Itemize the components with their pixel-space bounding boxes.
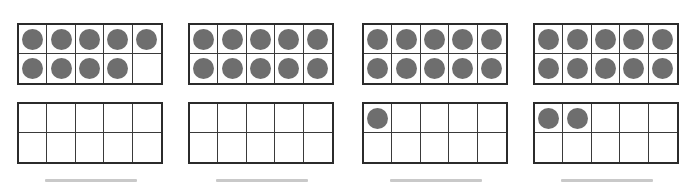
- ten-frame-cell[interactable]: [563, 25, 591, 54]
- ten-frame-cell[interactable]: [76, 25, 104, 54]
- ten-frame-cell[interactable]: [190, 25, 218, 54]
- ten-frame-cell[interactable]: [275, 133, 303, 162]
- ten-frame-cell[interactable]: [19, 133, 47, 162]
- ten-frame-cell[interactable]: [247, 133, 275, 162]
- ten-frame-cell[interactable]: [104, 54, 132, 83]
- ten-frame-cell[interactable]: [190, 54, 218, 83]
- ten-frame-cell[interactable]: [133, 104, 161, 133]
- ten-frame-cell[interactable]: [364, 54, 392, 83]
- ten-frame-cell[interactable]: [364, 133, 392, 162]
- ten-frame-cell[interactable]: [649, 104, 677, 133]
- ten-frame-3-1[interactable]: [362, 23, 508, 85]
- ten-frame-cell[interactable]: [304, 104, 332, 133]
- ten-frame-cell[interactable]: [592, 54, 620, 83]
- answer-line[interactable]: [390, 179, 482, 182]
- ten-frame-3-2[interactable]: [362, 102, 508, 164]
- counter-dot-icon: [595, 58, 616, 79]
- ten-frame-cell[interactable]: [449, 104, 477, 133]
- ten-frame-cell[interactable]: [275, 25, 303, 54]
- ten-frame-cell[interactable]: [620, 25, 648, 54]
- ten-frame-cell[interactable]: [535, 104, 563, 133]
- ten-frame-cell[interactable]: [247, 25, 275, 54]
- answer-line[interactable]: [561, 179, 653, 182]
- ten-frame-1-1[interactable]: [17, 23, 163, 85]
- ten-frame-cell[interactable]: [478, 25, 506, 54]
- ten-frame-cell[interactable]: [247, 54, 275, 83]
- ten-frame-cell[interactable]: [218, 25, 246, 54]
- ten-frame-1-2[interactable]: [17, 102, 163, 164]
- ten-frame-cell[interactable]: [218, 54, 246, 83]
- ten-frame-cell[interactable]: [76, 133, 104, 162]
- ten-frame-cell[interactable]: [649, 133, 677, 162]
- ten-frame-cell[interactable]: [19, 54, 47, 83]
- ten-frame-cell[interactable]: [535, 54, 563, 83]
- ten-frame-cell[interactable]: [76, 54, 104, 83]
- ten-frame-cell[interactable]: [133, 133, 161, 162]
- ten-frame-cell[interactable]: [449, 133, 477, 162]
- ten-frame-cell[interactable]: [133, 54, 161, 83]
- ten-frame-cell[interactable]: [76, 104, 104, 133]
- ten-frame-cell[interactable]: [47, 54, 75, 83]
- ten-frame-cell[interactable]: [535, 133, 563, 162]
- ten-frame-cell[interactable]: [364, 104, 392, 133]
- ten-frame-cell[interactable]: [104, 25, 132, 54]
- ten-frame-cell[interactable]: [218, 133, 246, 162]
- ten-frame-cell[interactable]: [478, 104, 506, 133]
- counter-dot-icon: [79, 58, 100, 79]
- ten-frame-cell[interactable]: [592, 104, 620, 133]
- answer-line[interactable]: [216, 179, 308, 182]
- ten-frame-cell[interactable]: [563, 133, 591, 162]
- ten-frame-2-2[interactable]: [188, 102, 334, 164]
- problem-group-1: [17, 0, 190, 188]
- ten-frame-cell[interactable]: [47, 104, 75, 133]
- ten-frame-cell[interactable]: [478, 133, 506, 162]
- counter-dot-icon: [193, 58, 214, 79]
- answer-line[interactable]: [45, 179, 137, 182]
- ten-frame-cell[interactable]: [19, 25, 47, 54]
- ten-frame-cell[interactable]: [392, 133, 420, 162]
- ten-frame-cell[interactable]: [190, 104, 218, 133]
- ten-frame-cell[interactable]: [304, 133, 332, 162]
- ten-frame-cell[interactable]: [304, 54, 332, 83]
- ten-frame-cell[interactable]: [218, 104, 246, 133]
- ten-frame-cell[interactable]: [449, 54, 477, 83]
- ten-frame-cell[interactable]: [449, 25, 477, 54]
- ten-frame-cell[interactable]: [19, 104, 47, 133]
- ten-frame-cell[interactable]: [563, 54, 591, 83]
- ten-frame-cell[interactable]: [535, 25, 563, 54]
- ten-frame-cell[interactable]: [421, 104, 449, 133]
- ten-frame-cell[interactable]: [478, 54, 506, 83]
- ten-frame-cell[interactable]: [392, 54, 420, 83]
- ten-frame-cell[interactable]: [47, 133, 75, 162]
- ten-frame-cell[interactable]: [364, 25, 392, 54]
- counter-dot-icon: [538, 108, 559, 129]
- counter-dot-icon: [623, 29, 644, 50]
- ten-frame-cell[interactable]: [247, 104, 275, 133]
- ten-frame-cell[interactable]: [104, 104, 132, 133]
- ten-frame-cell[interactable]: [133, 25, 161, 54]
- ten-frame-cell[interactable]: [421, 25, 449, 54]
- counter-dot-icon: [481, 58, 502, 79]
- ten-frame-cell[interactable]: [190, 133, 218, 162]
- ten-frame-cell[interactable]: [620, 133, 648, 162]
- ten-frame-4-2[interactable]: [533, 102, 679, 164]
- ten-frame-cell[interactable]: [563, 104, 591, 133]
- ten-frame-cell[interactable]: [649, 54, 677, 83]
- ten-frame-cell[interactable]: [47, 25, 75, 54]
- ten-frame-cell[interactable]: [620, 54, 648, 83]
- ten-frame-cell[interactable]: [649, 25, 677, 54]
- ten-frame-cell[interactable]: [392, 25, 420, 54]
- ten-frame-4-1[interactable]: [533, 23, 679, 85]
- ten-frame-cell[interactable]: [592, 25, 620, 54]
- ten-frame-cell[interactable]: [620, 104, 648, 133]
- counter-dot-icon: [136, 29, 157, 50]
- ten-frame-cell[interactable]: [304, 25, 332, 54]
- ten-frame-cell[interactable]: [392, 104, 420, 133]
- ten-frame-cell[interactable]: [104, 133, 132, 162]
- ten-frame-cell[interactable]: [275, 104, 303, 133]
- ten-frame-cell[interactable]: [275, 54, 303, 83]
- ten-frame-2-1[interactable]: [188, 23, 334, 85]
- ten-frame-cell[interactable]: [592, 133, 620, 162]
- ten-frame-cell[interactable]: [421, 54, 449, 83]
- ten-frame-cell[interactable]: [421, 133, 449, 162]
